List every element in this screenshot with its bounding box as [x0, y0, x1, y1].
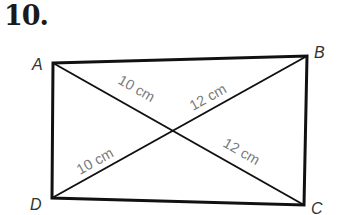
- vertex-label-c: C: [311, 200, 323, 215]
- diagonal-bd: [52, 56, 307, 198]
- measure-label-bo: 12 cm: [187, 80, 229, 113]
- vertex-label-b: B: [314, 44, 325, 61]
- rectangle-diagram: A B C D 10 cm 12 cm 10 cm 12 cm: [0, 0, 344, 215]
- vertex-label-d: D: [30, 196, 42, 213]
- measure-label-ao: 10 cm: [116, 72, 158, 105]
- measure-label-co: 12 cm: [221, 135, 263, 168]
- diagonal-ac: [53, 63, 304, 205]
- vertex-label-a: A: [31, 56, 43, 73]
- measure-label-do: 10 cm: [74, 144, 116, 177]
